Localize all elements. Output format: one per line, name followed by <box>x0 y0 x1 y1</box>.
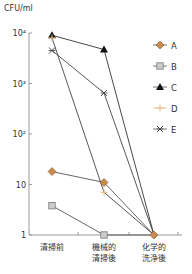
y-tick-label: 10² <box>13 130 26 139</box>
legend-diamond-icon <box>156 41 164 49</box>
x-category-label: 洗浄後 <box>142 253 166 263</box>
legend-label: E <box>171 125 176 135</box>
x-category-label: 化学的 <box>142 242 166 252</box>
legend-asterisk-icon <box>157 126 164 132</box>
x-category-label: 機械的 <box>92 242 116 252</box>
plus-marker-icon <box>49 34 56 41</box>
y-tick-label: 10⁴ <box>13 29 26 38</box>
asterisk-marker-icon <box>101 90 108 96</box>
series-line-d <box>52 38 154 235</box>
series-line-e <box>52 51 154 235</box>
legend-label: D <box>171 104 178 114</box>
series-line-c <box>52 35 154 235</box>
square-marker-icon <box>49 203 55 209</box>
x-category-label: 清掃前 <box>40 242 64 252</box>
y-tick-label: 10 <box>16 181 26 190</box>
line-chart: 10⁴10³10²101清掃前機械的清掃後化学的洗浄後ABCDE <box>0 0 192 274</box>
legend-triangle-icon <box>156 83 164 90</box>
y-tick-label: 1 <box>21 231 26 240</box>
x-category-label: 清掃後 <box>92 253 116 263</box>
diamond-marker-icon <box>48 168 56 176</box>
asterisk-marker-icon <box>49 48 56 54</box>
y-tick-label: 10³ <box>13 80 26 89</box>
legend: ABCDE <box>153 41 178 135</box>
legend-label: B <box>171 62 177 72</box>
legend-square-icon <box>157 63 163 69</box>
legend-label: A <box>171 41 177 51</box>
series-line-b <box>52 206 154 235</box>
legend-plus-icon <box>157 105 164 112</box>
legend-label: C <box>171 83 177 93</box>
square-marker-icon <box>101 232 107 238</box>
